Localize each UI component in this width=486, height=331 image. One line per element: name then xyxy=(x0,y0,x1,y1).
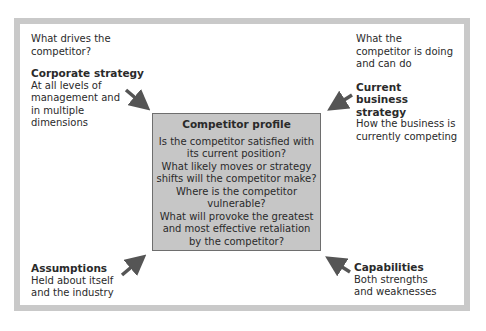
arrows-layer xyxy=(0,0,486,331)
arrow-icon-bottom-left xyxy=(122,259,141,275)
arrow-icon-top-left xyxy=(126,90,145,106)
arrow-icon-bottom-right xyxy=(331,260,350,272)
arrow-icon-top-right xyxy=(333,95,352,107)
